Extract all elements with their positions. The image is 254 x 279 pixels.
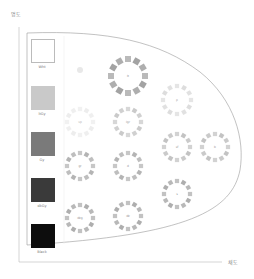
tone-ring-label: vp — [78, 120, 82, 124]
tone-ring-label: p — [176, 98, 178, 102]
tone-ring-label: s — [176, 192, 178, 196]
tone-ring-label: d — [127, 164, 129, 168]
tone-ring-label: dk — [126, 214, 130, 218]
tone-ring-dk: dk — [113, 201, 143, 231]
tone-ring-b: b — [200, 132, 230, 162]
swatch-dkgy — [31, 178, 55, 202]
swatch-label: Gy — [26, 158, 58, 162]
tone-ring-dkg: dkg — [65, 203, 95, 233]
tone-ring-lt: lt — [108, 56, 148, 96]
tone-ring-lgr: lgr — [113, 107, 143, 137]
tone-ring-label: sf — [176, 145, 180, 149]
tone-ring-sf: sf — [162, 132, 192, 162]
swatch-label: ltGy — [26, 112, 58, 116]
swatch-label: Black — [26, 250, 58, 254]
tone-ring-label: lt — [127, 74, 130, 78]
tone-ring-label: gr — [78, 164, 82, 168]
swatch-label: dkGy — [26, 204, 58, 208]
swatch-ltgy — [31, 86, 55, 110]
swatch-gy — [31, 132, 55, 156]
tone-ring-label: b — [214, 145, 216, 149]
tone-ring-s: s — [162, 179, 192, 209]
tone-rings-group: ltpvplgrsfbgrdsdkgdk — [65, 56, 230, 233]
swatch-label: Wht — [26, 65, 58, 69]
tone-boundary-curve — [27, 33, 241, 245]
tone-ring-p: p — [161, 84, 193, 116]
tone-ring-label: lgr — [126, 120, 131, 124]
tone-ring-label: dkg — [77, 216, 83, 220]
swatch-wht — [31, 39, 55, 63]
swatch-black — [31, 224, 55, 248]
tone-ring-gr: gr — [65, 151, 95, 181]
tone-ring-d: d — [113, 151, 143, 181]
tone-ring-ltgy — [77, 67, 83, 73]
tone-ring-vp: vp — [65, 107, 95, 137]
